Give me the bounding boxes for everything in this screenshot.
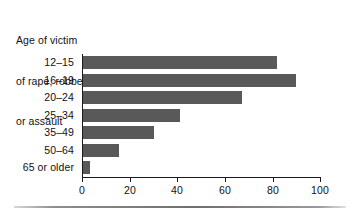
category-label: 50–64 — [0, 144, 74, 157]
category-label: 12–15 — [0, 56, 74, 69]
x-axis-tick-label: 0 — [62, 184, 102, 197]
x-axis-tick-label: 40 — [157, 184, 197, 197]
x-axis-tick — [225, 177, 226, 182]
bar-segment — [83, 161, 90, 174]
x-axis-tick — [130, 177, 131, 182]
bottom-divider-rule — [14, 206, 346, 208]
bar-segment — [83, 91, 242, 104]
bar-segment — [83, 74, 296, 87]
x-axis-tick — [320, 177, 321, 182]
category-label: 25–34 — [0, 109, 74, 122]
category-label: 20–24 — [0, 91, 74, 104]
x-axis-tick-label: 60 — [205, 184, 245, 197]
x-axis-line — [82, 177, 321, 178]
bar-segment — [83, 56, 277, 69]
x-axis-tick — [273, 177, 274, 182]
bar-segment — [83, 109, 180, 122]
x-axis-tick-label: 20 — [110, 184, 150, 197]
x-axis-tick-label: 80 — [253, 184, 293, 197]
bar-segment — [83, 126, 154, 139]
category-label: 16–19 — [0, 74, 74, 87]
x-axis-tick-label: 100 — [300, 184, 340, 197]
bar-segment — [83, 144, 119, 157]
category-label: 65 or older — [0, 161, 74, 174]
bar-chart-figure: Age of victim of rape, robbery, or assau… — [0, 0, 356, 215]
x-axis-tick — [177, 177, 178, 182]
category-label: 35–49 — [0, 126, 74, 139]
plot-area: 12–15 16–19 20–24 25–34 35–49 50–64 65 o… — [0, 0, 356, 215]
x-axis-tick — [82, 177, 83, 182]
